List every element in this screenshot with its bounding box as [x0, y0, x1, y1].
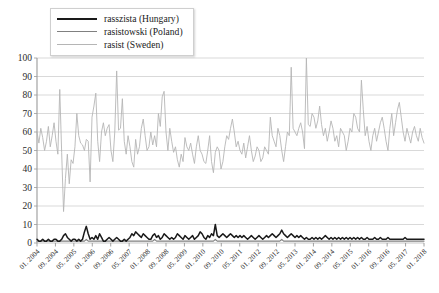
series-line-0 [37, 225, 424, 242]
y-tick-label: 0 [27, 238, 32, 248]
chart-page: 010203040506070809010001. 200409. 200405… [0, 0, 439, 293]
legend-label-rasist: rasist (Sweden) [104, 38, 163, 51]
y-tick-label: 50 [23, 146, 33, 156]
legend-label-rasszista: rasszista (Hungary) [104, 12, 179, 25]
legend-item[interactable]: rasistowski (Poland) [51, 25, 183, 38]
legend-item[interactable]: rasist (Sweden) [51, 38, 183, 51]
y-tick-label: 60 [23, 127, 33, 137]
y-tick-label: 10 [23, 220, 33, 230]
legend-swatch-rasistowski [57, 31, 97, 32]
y-tick-label: 40 [23, 164, 33, 174]
legend-item[interactable]: rasszista (Hungary) [51, 12, 183, 25]
legend-swatch-rasist [57, 44, 97, 45]
legend-label-rasistowski: rasistowski (Poland) [104, 25, 183, 38]
y-tick-label: 70 [23, 109, 33, 119]
x-tick-label: 01. 2018 [405, 247, 429, 271]
chart-legend: rasszista (Hungary) rasistowski (Poland)… [50, 8, 194, 56]
legend-swatch-rasszista [57, 18, 97, 20]
y-tick-label: 90 [23, 72, 33, 82]
series-line-2 [37, 58, 424, 212]
y-tick-label: 80 [23, 90, 33, 100]
y-tick-label: 20 [23, 201, 33, 211]
y-tick-label: 100 [18, 53, 33, 63]
y-tick-label: 30 [23, 183, 33, 193]
